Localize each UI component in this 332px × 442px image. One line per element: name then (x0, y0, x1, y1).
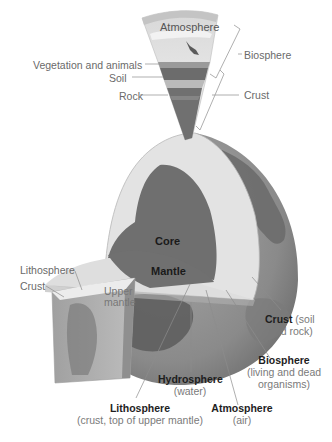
wedge-atmosphere-label: Atmosphere (160, 21, 219, 33)
mantle-label: Mantle (151, 265, 186, 277)
soil-label: Soil (109, 72, 127, 84)
biosphere-bottom-desc2: organisms) (238, 378, 330, 390)
crust-bottom-desc2: and rock) (269, 325, 313, 337)
upper-mantle-label-line2: mantle (104, 296, 136, 308)
crust-left-label: Crust (20, 280, 45, 292)
lithosphere-bottom-title: Lithosphere (70, 402, 210, 414)
lithosphere-bottom-desc: (crust, top of upper mantle) (60, 414, 220, 426)
hydrosphere-desc: (water) (158, 385, 222, 397)
hydrosphere-title: Hydrosphere (158, 373, 222, 385)
crust-bottom-title: Crust (265, 313, 292, 325)
lithosphere-left-label: Lithosphere (20, 264, 75, 276)
atmosphere-bottom-title: Atmosphere (210, 402, 274, 414)
rock-label: Rock (119, 90, 143, 102)
biosphere-bottom-title: Biosphere (238, 354, 330, 366)
crust-bottom-desc: (soil (295, 313, 314, 325)
biosphere-bracket-label: Biosphere (244, 49, 291, 61)
crust-bracket-label: Crust (244, 89, 269, 101)
vegetation-label: Vegetation and animals (33, 59, 142, 71)
crust-bottom-label: Crust (soil (265, 313, 315, 325)
core-label: Core (155, 235, 180, 247)
biosphere-bottom-desc1: (living and dead (238, 366, 330, 378)
